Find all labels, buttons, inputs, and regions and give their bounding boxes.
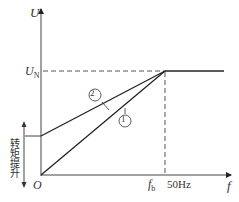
x-axis-label: f: [227, 179, 231, 192]
y-axis-label: U: [30, 6, 39, 19]
curve-2-leader: [102, 102, 109, 110]
origin-label: O: [33, 179, 42, 191]
torque-boost-label: 转矩提升: [6, 138, 21, 178]
curve-1: [41, 71, 165, 175]
vf-diagram: [0, 0, 239, 202]
base-freq-label: fb: [148, 178, 155, 193]
curve-2-label: 2: [90, 89, 95, 98]
curve-1-label: 1: [121, 115, 126, 124]
rated-voltage-label: UN: [25, 65, 39, 80]
base-freq-value: 50Hz: [167, 179, 191, 190]
